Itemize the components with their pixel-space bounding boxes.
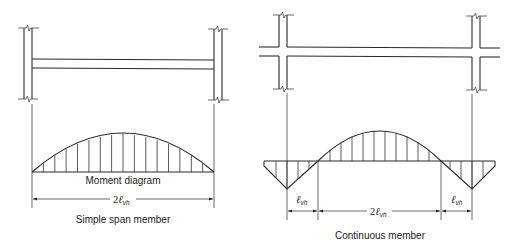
right-column (208, 26, 229, 103)
hatching (43, 133, 202, 172)
right-column (466, 13, 487, 93)
simple-span-caption: Simple span member (76, 214, 171, 225)
beam (32, 59, 214, 69)
left-column (18, 25, 39, 102)
simple-moment-diagram (32, 133, 214, 172)
continuous-frame (259, 12, 500, 220)
simple-span-dimension: 2ℓvh (33, 194, 213, 206)
continuous-member-caption: Continuous member (335, 230, 426, 241)
dimension-label-left: ℓvh (296, 194, 308, 206)
hatching (276, 131, 483, 189)
beam (259, 47, 500, 57)
continuous-dimensions: ℓvh 2ℓvh ℓvh (288, 194, 471, 218)
continuous-moment-diagram (264, 131, 495, 189)
dimension-label-center: 2ℓvh (370, 206, 387, 218)
dimension-label-right: ℓvh (451, 194, 463, 206)
moment-diagram-label: Moment diagram (85, 175, 160, 186)
dimension-label: 2ℓvh (113, 194, 130, 206)
moment-diagrams-figure: Moment diagram 2ℓvh Simple span member (0, 0, 517, 250)
left-column (273, 12, 294, 92)
